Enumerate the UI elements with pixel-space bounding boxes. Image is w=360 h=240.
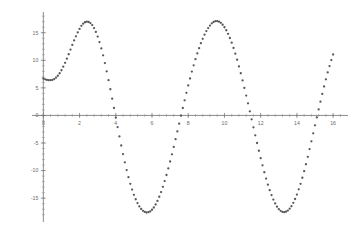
x-tick-label: 2 xyxy=(78,120,81,126)
data-point xyxy=(80,25,82,27)
data-point xyxy=(58,72,60,74)
y-tick-label: 5 xyxy=(35,85,38,91)
data-point xyxy=(272,198,274,200)
data-point xyxy=(180,115,182,117)
data-point xyxy=(149,210,151,212)
data-point xyxy=(220,22,222,24)
data-point xyxy=(91,24,93,26)
data-point xyxy=(165,174,167,176)
data-point xyxy=(187,84,189,86)
data-point xyxy=(182,107,184,109)
data-point xyxy=(158,196,160,198)
data-point xyxy=(229,37,231,39)
data-point xyxy=(173,146,175,148)
data-point xyxy=(261,164,263,166)
data-point xyxy=(69,48,71,50)
data-point xyxy=(193,64,195,66)
x-axis-tick-labels: 0246810121416 xyxy=(42,120,336,126)
x-tick-label: 10 xyxy=(222,120,228,126)
data-point xyxy=(78,28,80,30)
data-point xyxy=(330,59,332,61)
data-point xyxy=(131,188,133,190)
data-point xyxy=(209,24,211,26)
data-point xyxy=(107,79,109,81)
x-tick-label: 8 xyxy=(187,120,190,126)
data-point xyxy=(252,126,254,128)
data-point xyxy=(98,41,100,43)
data-point xyxy=(327,71,329,73)
x-tick-label: 0 xyxy=(42,120,45,126)
data-point xyxy=(126,169,128,171)
data-point xyxy=(240,72,242,74)
data-point xyxy=(156,200,158,202)
data-point xyxy=(75,35,77,37)
data-point xyxy=(238,65,240,67)
data-point xyxy=(129,183,131,185)
data-point xyxy=(241,79,243,81)
data-point xyxy=(200,42,202,44)
data-point xyxy=(95,31,97,33)
data-point xyxy=(274,202,276,204)
data-point xyxy=(267,183,269,185)
data-point xyxy=(127,176,129,178)
data-point xyxy=(203,34,205,36)
data-point xyxy=(294,198,296,200)
x-tick-label: 4 xyxy=(114,120,117,126)
data-point xyxy=(116,126,118,128)
y-axis-tick-labels: -15-10-5051015 xyxy=(31,30,39,201)
data-point xyxy=(102,54,104,56)
data-point xyxy=(55,77,57,79)
data-point xyxy=(151,209,153,211)
data-point xyxy=(292,202,294,204)
data-point xyxy=(164,180,166,182)
data-point xyxy=(113,107,115,109)
data-point xyxy=(298,188,300,190)
data-point xyxy=(296,193,298,195)
data-point xyxy=(109,88,111,90)
data-point xyxy=(89,22,91,24)
data-point xyxy=(136,202,138,204)
data-point xyxy=(289,207,291,209)
data-point xyxy=(53,78,55,80)
data-point xyxy=(171,153,173,155)
data-point xyxy=(231,42,233,44)
data-point xyxy=(207,27,209,29)
data-point xyxy=(270,194,272,196)
data-point xyxy=(138,205,140,207)
data-point xyxy=(328,65,330,67)
data-point xyxy=(323,85,325,87)
data-point xyxy=(133,194,135,196)
data-point xyxy=(205,30,207,32)
data-point xyxy=(303,170,305,172)
data-point xyxy=(301,177,303,179)
data-point xyxy=(325,78,327,80)
data-point xyxy=(319,101,321,103)
data-point xyxy=(321,93,323,95)
data-point xyxy=(194,58,196,60)
data-point xyxy=(269,189,271,191)
data-point xyxy=(77,31,79,33)
data-point xyxy=(290,205,292,207)
data-point xyxy=(202,38,204,40)
data-point xyxy=(211,22,213,24)
y-tick-label: 0 xyxy=(35,112,38,118)
data-point xyxy=(299,183,301,185)
y-tick-label: 10 xyxy=(33,57,39,63)
data-point xyxy=(222,24,224,26)
data-point xyxy=(100,47,102,49)
data-point xyxy=(258,150,260,152)
y-tick-label: -10 xyxy=(31,167,39,173)
data-point xyxy=(60,69,62,71)
data-point xyxy=(245,94,247,96)
data-point xyxy=(93,27,95,29)
data-point xyxy=(57,75,59,77)
data-point xyxy=(265,177,267,179)
data-point xyxy=(227,33,229,35)
data-point xyxy=(332,53,334,55)
data-point xyxy=(287,209,289,211)
data-point xyxy=(122,153,124,155)
data-point xyxy=(178,123,180,125)
data-point xyxy=(124,161,126,163)
y-tick-label: -15 xyxy=(31,195,39,201)
data-point xyxy=(174,138,176,140)
